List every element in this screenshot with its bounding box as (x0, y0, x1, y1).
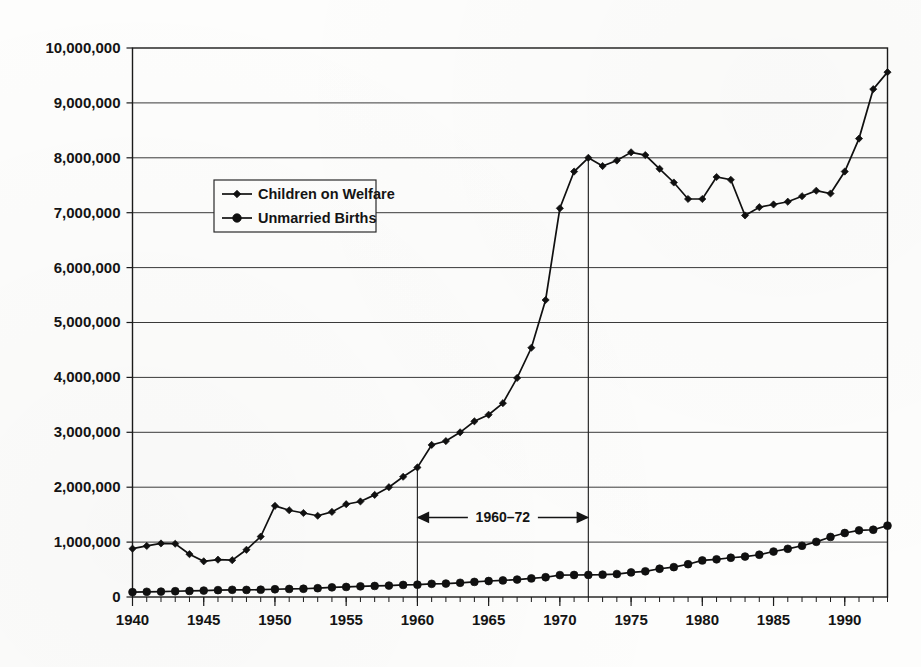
legend-item-label-0: Children on Welfare (258, 186, 395, 202)
circle-marker-glyph (233, 214, 242, 223)
data-point-marker (841, 529, 849, 537)
x-axis-tick-label: 1985 (757, 611, 790, 628)
x-axis-tick-label: 1945 (187, 611, 220, 628)
y-axis-tick-label: 8,000,000 (54, 149, 121, 166)
data-point-marker (157, 588, 165, 596)
x-axis-tick-label: 1970 (543, 611, 576, 628)
data-point-marker (300, 585, 308, 593)
data-point-marker (214, 586, 222, 594)
y-axis-tick-label: 4,000,000 (54, 368, 121, 385)
data-point-marker (200, 587, 208, 595)
data-point-marker (357, 582, 365, 590)
data-point-marker (399, 581, 407, 589)
legend-item-label-1: Unmarried Births (258, 210, 376, 226)
data-point-marker (627, 569, 635, 577)
data-point-marker (812, 538, 820, 546)
data-point-marker (727, 554, 735, 562)
y-axis-tick-label: 3,000,000 (54, 423, 121, 440)
annotation-label: 1960–72 (476, 509, 531, 525)
data-point-marker (713, 555, 721, 563)
data-point-marker (385, 582, 393, 590)
data-point-marker (129, 588, 137, 596)
x-axis-tick-label: 1990 (828, 611, 861, 628)
y-axis-tick-label: 10,000,000 (45, 39, 120, 56)
data-point-marker (228, 586, 236, 594)
data-point-marker (670, 563, 678, 571)
data-point-marker (271, 585, 279, 593)
data-point-marker (527, 574, 535, 582)
data-point-marker (342, 583, 350, 591)
y-axis-tick-label: 2,000,000 (54, 478, 121, 495)
data-point-marker (741, 553, 749, 561)
data-point-marker (798, 542, 806, 550)
data-point-marker (470, 578, 478, 586)
data-point-marker (770, 548, 778, 556)
y-axis-tick-label: 6,000,000 (54, 259, 121, 276)
data-point-marker (485, 577, 493, 585)
data-point-marker (884, 522, 892, 530)
x-axis-tick-label: 1965 (472, 611, 505, 628)
data-point-marker (656, 565, 664, 573)
data-point-marker (542, 573, 550, 581)
data-point-marker (755, 551, 763, 559)
data-point-marker (784, 545, 792, 553)
data-point-marker (684, 560, 692, 568)
data-point-marker (641, 567, 649, 575)
data-point-marker (171, 587, 179, 595)
y-axis-tick-label: 5,000,000 (54, 313, 121, 330)
data-point-marker (442, 580, 450, 588)
x-axis-tick-label: 1980 (686, 611, 719, 628)
chart-background (0, 0, 921, 667)
data-point-marker (428, 580, 436, 588)
data-point-marker (613, 570, 621, 578)
data-point-marker (698, 557, 706, 565)
x-axis-tick-label: 1950 (258, 611, 291, 628)
y-axis-tick-label: 1,000,000 (54, 533, 121, 550)
data-point-marker (513, 576, 521, 584)
data-point-marker (827, 533, 835, 541)
data-point-marker (599, 571, 607, 579)
line-chart-canvas: 01,000,0002,000,0003,000,0004,000,0005,0… (0, 0, 921, 667)
data-point-marker (143, 588, 151, 596)
circle-marker-icon (233, 214, 242, 223)
data-point-marker (257, 586, 265, 594)
data-point-marker (499, 577, 507, 585)
data-point-marker (371, 582, 379, 590)
x-axis-tick-label: 1975 (614, 611, 647, 628)
x-axis-tick-label: 1940 (116, 611, 149, 628)
data-point-marker (570, 571, 578, 579)
y-axis-tick-label: 0 (112, 588, 120, 605)
data-point-marker (186, 587, 194, 595)
data-point-marker (414, 581, 422, 589)
x-axis-tick-label: 1955 (329, 611, 362, 628)
chart-legend: Children on Welfare Unmarried Births (214, 180, 395, 232)
data-point-marker (243, 586, 251, 594)
data-point-marker (328, 583, 336, 591)
y-axis-tick-label: 7,000,000 (54, 204, 121, 221)
chart-figure: 01,000,0002,000,0003,000,0004,000,0005,0… (0, 0, 921, 667)
data-point-marker (314, 584, 322, 592)
data-point-marker (556, 571, 564, 579)
data-point-marker (855, 526, 863, 534)
data-point-marker (456, 579, 464, 587)
data-point-marker (869, 526, 877, 534)
data-point-marker (584, 571, 592, 579)
data-point-marker (285, 585, 293, 593)
x-axis-tick-label: 1960 (401, 611, 434, 628)
y-axis-tick-label: 9,000,000 (54, 94, 121, 111)
